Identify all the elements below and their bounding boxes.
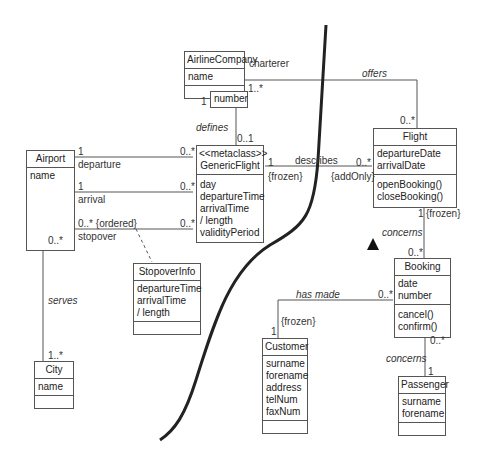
class-attribute: departureDate: [377, 148, 453, 160]
class-operation: closeBooking(): [377, 191, 453, 203]
class-operations: cancel() confirm(): [395, 305, 450, 337]
class-name: City: [35, 362, 73, 379]
class-flight[interactable]: Flight departureDate arrivalDate openBoo…: [373, 128, 457, 208]
constraint-addonly: {addOnly}: [331, 171, 375, 182]
class-name: AirlineCompany: [185, 52, 244, 69]
mult: 1: [271, 326, 277, 337]
class-attribute: arrivalTime: [137, 295, 197, 307]
mult: 1: [418, 208, 424, 219]
class-attributes: surname forename address telNum faxNum: [263, 356, 307, 421]
mult: 0..*: [400, 115, 415, 126]
class-operations: [35, 396, 73, 408]
class-name: Flight: [374, 129, 456, 146]
mult: 1: [268, 157, 274, 168]
class-attribute: validityPeriod: [200, 227, 260, 239]
class-attribute: arrivalDate: [377, 160, 453, 172]
constraint-frozen: {frozen}: [268, 171, 302, 182]
class-attribute: / length: [200, 215, 260, 227]
class-operation: confirm(): [398, 321, 447, 333]
role-stopover: stopover: [78, 231, 116, 242]
class-attribute: surname: [402, 396, 442, 408]
class-attributes: surname forename: [399, 394, 445, 423]
class-name: StopoverInfo: [134, 264, 200, 281]
mult: 1: [78, 181, 84, 192]
assoc-offers: offers: [362, 68, 387, 79]
class-attributes: day departureTime arrivalTime / length v…: [197, 175, 263, 242]
mult: 1: [428, 366, 434, 377]
class-attribute: faxNum: [266, 406, 304, 418]
mult: 0..*: [180, 181, 195, 192]
assoc-has-made: has made: [296, 289, 340, 300]
mult: 1: [201, 96, 207, 107]
class-attribute: name: [185, 69, 244, 86]
class-attribute: name: [35, 379, 73, 396]
class-operation: cancel(): [398, 309, 447, 321]
class-attribute: name: [27, 168, 74, 184]
class-attribute: forename: [266, 370, 304, 382]
role-arrival: arrival: [78, 194, 105, 205]
constraint-frozen: {frozen}: [281, 316, 315, 327]
qualifier-number[interactable]: number: [210, 91, 248, 108]
mult: 0..*: [408, 247, 423, 258]
mult: 1: [78, 146, 84, 157]
class-operations: openBooking() closeBooking(): [374, 175, 456, 207]
class-customer[interactable]: Customer surname forename address telNum…: [262, 338, 308, 434]
role-charterer: charterer: [249, 58, 289, 69]
class-attribute: day: [200, 179, 260, 191]
class-name: GenericFlight: [199, 160, 261, 172]
mult: 1..*: [248, 83, 263, 94]
mult-ordered: 0..* {ordered}: [78, 218, 137, 229]
class-name: Passenger: [399, 377, 445, 394]
role-departure: departure: [78, 159, 121, 170]
class-generic-flight[interactable]: <<metaclass>>GenericFlight day departure…: [196, 145, 264, 243]
class-name: Customer: [263, 339, 307, 356]
assoc-describes: describes: [295, 155, 338, 166]
mult: 0..*: [356, 157, 371, 168]
class-city[interactable]: City name: [34, 361, 74, 409]
mult: 0..*: [430, 335, 445, 346]
class-attribute: telNum: [266, 394, 304, 406]
class-attribute: departureTime: [200, 191, 260, 203]
class-attribute: forename: [402, 408, 442, 420]
class-name: Airport: [27, 151, 74, 168]
class-attribute: surname: [266, 358, 304, 370]
assoc-concerns: concerns: [382, 227, 423, 238]
assoc-defines: defines: [196, 122, 228, 133]
class-header: <<metaclass>>GenericFlight: [197, 146, 263, 175]
class-attributes: departureDate arrivalDate: [374, 146, 456, 175]
class-attribute: date: [398, 278, 447, 290]
class-stereotype: <<metaclass>>: [199, 148, 261, 160]
class-attribute: arrivalTime: [200, 203, 260, 215]
assoc-serves: serves: [48, 295, 77, 306]
class-operation: openBooking(): [377, 179, 453, 191]
class-attribute: number: [398, 290, 447, 302]
class-attribute: address: [266, 382, 304, 394]
class-operations: [263, 421, 307, 433]
class-attribute: departureTime: [137, 283, 197, 295]
mult: 1..*: [48, 350, 63, 361]
mult: 0..*: [180, 218, 195, 229]
class-stopover-info[interactable]: StopoverInfo departureTime arrivalTime /…: [133, 263, 201, 335]
class-name: Booking: [395, 259, 450, 276]
constraint-frozen: {frozen}: [426, 208, 460, 219]
class-attributes: departureTime arrivalTime / length: [134, 281, 200, 322]
direction-triangle-icon: [367, 238, 379, 250]
class-operations: [399, 423, 445, 435]
class-attribute: / length: [137, 307, 197, 319]
mult: 0..*: [378, 289, 393, 300]
mult: 0..1: [237, 133, 254, 144]
class-booking[interactable]: Booking date number cancel() confirm(): [394, 258, 451, 338]
qualifier-label: number: [214, 93, 248, 104]
class-attributes: date number: [395, 276, 450, 305]
mult: 0..*: [48, 235, 63, 246]
mult: 0..*: [180, 146, 195, 157]
class-passenger[interactable]: Passenger surname forename: [398, 376, 446, 436]
class-operations: [134, 322, 200, 334]
assoc-concerns: concerns: [386, 353, 427, 364]
